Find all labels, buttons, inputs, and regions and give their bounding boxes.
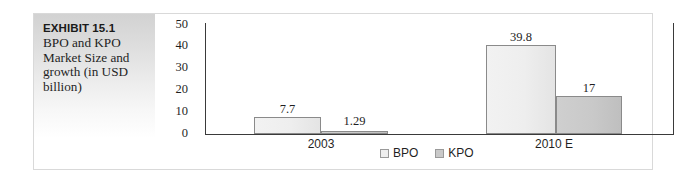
legend-label-kpo: KPO (448, 147, 473, 159)
bar-value-bpo-2003: 7.7 (254, 102, 321, 117)
bar-bpo-2010e (486, 45, 556, 134)
bar-value-bpo-2010e: 39.8 (486, 30, 556, 45)
y-tick-20: 20 (162, 84, 188, 94)
exhibit-caption-text: BPO and KPO Market Size and growth (in U… (43, 36, 147, 94)
legend-swatch-kpo-icon (435, 149, 444, 158)
bar-kpo-2003 (321, 131, 388, 134)
legend-entry-kpo: KPO (435, 147, 473, 159)
legend-label-bpo: BPO (393, 147, 418, 159)
exhibit-caption-panel: EXHIBIT 15.1 BPO and KPO Market Size and… (34, 14, 155, 169)
y-tick-50: 50 (162, 19, 188, 29)
exhibit-number: EXHIBIT 15.1 (43, 21, 147, 35)
bar-kpo-2010e (556, 96, 622, 134)
y-tick-40: 40 (162, 40, 188, 50)
plot-area: 7.7 1.29 2003 39.8 17 2010 E (205, 23, 674, 135)
bar-bpo-2003 (254, 117, 321, 134)
bar-value-kpo-2010e: 17 (556, 81, 622, 96)
y-tick-10: 10 (162, 106, 188, 116)
legend-swatch-bpo-icon (380, 149, 389, 158)
bar-value-kpo-2003: 1.29 (321, 114, 388, 129)
x-category-2010e: 2010 E (486, 137, 622, 151)
x-category-2003: 2003 (254, 137, 388, 151)
y-tick-0: 0 (162, 128, 188, 138)
chart-legend: BPO KPO (380, 147, 474, 159)
y-tick-30: 30 (162, 62, 188, 72)
chart-plot-region: 50 40 30 20 10 0 7.7 1.29 2003 39.8 17 2… (155, 14, 652, 169)
exhibit-figure: EXHIBIT 15.1 BPO and KPO Market Size and… (33, 13, 653, 170)
legend-entry-bpo: BPO (380, 147, 418, 159)
y-axis: 50 40 30 20 10 0 (155, 14, 188, 169)
